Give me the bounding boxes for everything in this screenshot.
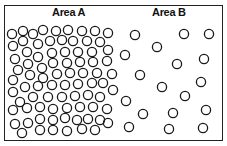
particle-circle-icon — [33, 52, 42, 61]
particle-circle-icon — [73, 47, 82, 56]
particle-circle-icon — [199, 54, 208, 63]
particle-circle-icon — [98, 78, 107, 87]
particle-circle-icon — [65, 68, 74, 77]
particle-circle-icon — [75, 57, 84, 66]
particle-circle-icon — [102, 56, 111, 65]
particle-circle-icon — [90, 26, 99, 35]
particle-circle-icon — [60, 113, 69, 122]
particle-circle-icon — [8, 41, 17, 50]
particle-circle-icon — [22, 47, 31, 56]
particle-circle-icon — [25, 70, 34, 79]
particle-circle-icon — [62, 58, 71, 67]
particle-circle-icon — [121, 96, 130, 105]
particle-circle-icon — [63, 25, 72, 34]
particle-circle-icon — [22, 103, 31, 112]
particle-field — [0, 0, 227, 146]
particle-circle-icon — [95, 37, 104, 46]
particle-circle-icon — [103, 28, 112, 37]
area-a-particles — [7, 25, 117, 137]
particle-circle-icon — [37, 63, 46, 72]
particle-circle-icon — [78, 68, 87, 77]
particle-circle-icon — [168, 108, 177, 117]
particle-circle-icon — [7, 29, 16, 38]
particle-circle-icon — [82, 36, 91, 45]
particle-circle-icon — [77, 26, 86, 35]
particle-circle-icon — [103, 45, 112, 54]
particle-circle-icon — [87, 47, 96, 56]
particle-circle-icon — [204, 29, 213, 38]
particle-circle-icon — [33, 39, 42, 48]
particle-circle-icon — [164, 124, 173, 133]
particle-circle-icon — [10, 54, 19, 63]
particle-circle-icon — [38, 25, 47, 34]
particle-circle-icon — [18, 26, 27, 35]
particle-circle-icon — [13, 65, 22, 74]
particle-circle-icon — [73, 79, 82, 88]
particle-circle-icon — [48, 58, 57, 67]
particle-circle-icon — [60, 47, 69, 56]
particle-circle-icon — [33, 81, 42, 90]
particle-circle-icon — [103, 118, 112, 127]
particle-circle-icon — [180, 91, 189, 100]
particle-circle-icon — [152, 42, 161, 51]
particle-circle-icon — [57, 92, 66, 101]
particle-circle-icon — [45, 36, 54, 45]
particle-circle-icon — [35, 125, 44, 134]
particle-circle-icon — [47, 48, 56, 57]
particle-circle-icon — [172, 59, 181, 68]
particle-circle-icon — [90, 125, 99, 134]
particle-circle-icon — [8, 75, 17, 84]
particle-circle-icon — [10, 119, 19, 128]
particle-circle-icon — [62, 103, 71, 112]
particle-circle-icon — [157, 82, 166, 91]
particle-circle-icon — [35, 114, 44, 123]
particle-circle-icon — [108, 85, 117, 94]
particle-circle-icon — [107, 69, 116, 78]
particle-circle-icon — [28, 92, 37, 101]
particle-circle-icon — [51, 26, 60, 35]
particle-circle-icon — [83, 114, 92, 123]
particle-circle-icon — [92, 68, 101, 77]
particle-circle-icon — [196, 77, 205, 86]
particle-circle-icon — [75, 102, 84, 111]
particle-circle-icon — [201, 105, 210, 114]
particle-circle-icon — [20, 82, 29, 91]
particle-circle-icon — [138, 109, 147, 118]
particle-circle-icon — [35, 102, 44, 111]
particle-circle-icon — [124, 122, 133, 131]
particle-circle-icon — [47, 80, 56, 89]
particle-circle-icon — [48, 115, 57, 124]
particle-circle-icon — [62, 126, 71, 135]
particle-circle-icon — [77, 124, 86, 133]
particle-circle-icon — [179, 29, 188, 38]
particle-circle-icon — [102, 104, 111, 113]
particle-circle-icon — [120, 50, 129, 59]
particle-circle-icon — [60, 80, 69, 89]
particle-circle-icon — [198, 123, 207, 132]
particle-circle-icon — [8, 105, 17, 114]
particle-circle-icon — [72, 115, 81, 124]
particle-circle-icon — [57, 35, 66, 44]
particle-circle-icon — [28, 29, 37, 38]
particle-circle-icon — [87, 78, 96, 87]
particle-circle-icon — [43, 92, 52, 101]
particle-circle-icon — [48, 125, 57, 134]
particle-circle-icon — [135, 70, 144, 79]
particle-circle-icon — [83, 90, 92, 99]
particle-circle-icon — [70, 91, 79, 100]
particle-circle-icon — [17, 128, 26, 137]
particle-circle-icon — [52, 69, 61, 78]
particle-circle-icon — [23, 59, 32, 68]
particle-circle-icon — [88, 57, 97, 66]
particle-circle-icon — [130, 30, 139, 39]
particle-circle-icon — [8, 87, 17, 96]
area-b-particles — [120, 29, 213, 133]
particle-circle-icon — [68, 36, 77, 45]
particle-circle-icon — [88, 102, 97, 111]
particle-circle-icon — [23, 118, 32, 127]
particle-circle-icon — [48, 104, 57, 113]
particle-circle-icon — [18, 36, 27, 45]
particle-circle-icon — [95, 92, 104, 101]
